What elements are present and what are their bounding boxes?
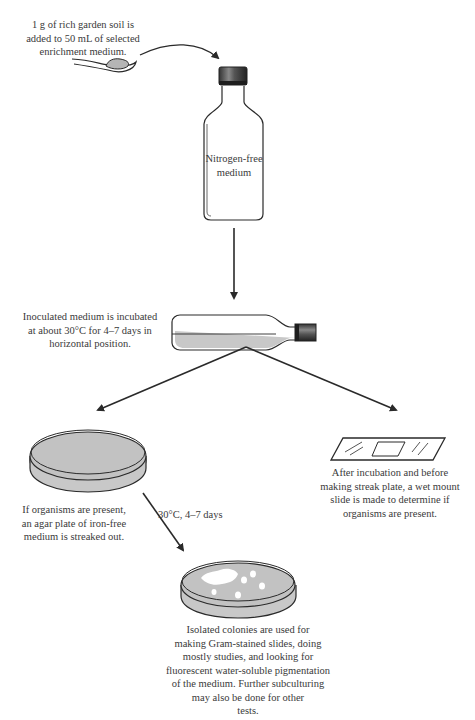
incubation-caption: Inoculated medium is incubated at about … — [10, 310, 170, 351]
caption-line: Inoculated medium is incubated — [10, 310, 170, 324]
caption-line: an agar plate of iron-free — [4, 517, 144, 531]
bottle-label: Nitrogen-free medium — [200, 152, 268, 179]
label-line: 30°C, 4–7 days — [158, 508, 248, 522]
caption-line: may also be done for other — [148, 691, 348, 705]
colony-plate-icon — [181, 561, 296, 618]
caption-line: fluorescent water-soluble pigmentation — [148, 664, 348, 678]
label-line: Nitrogen-free — [200, 152, 268, 166]
wet-mount-caption: After incubation and before making strea… — [305, 466, 475, 520]
arrow-to-plate — [98, 347, 246, 410]
caption-line: making streak plate, a wet mount — [305, 480, 475, 494]
soil-addition-caption: 1 g of rich garden soil is added to 50 m… — [18, 18, 148, 59]
caption-line: horizontal position. — [10, 337, 170, 351]
horizontal-bottle-icon — [172, 315, 316, 350]
isolated-colonies-caption: Isolated colonies are used for making Gr… — [148, 623, 348, 718]
diagram-artwork — [0, 0, 475, 720]
caption-line: at about 30°C for 4–7 days in — [10, 324, 170, 338]
bottle-icon — [204, 67, 263, 220]
streak-plate-caption: If organisms are present, an agar plate … — [4, 503, 144, 544]
slide-icon — [331, 438, 445, 460]
caption-line: 1 g of rich garden soil is — [18, 18, 148, 32]
plate-incubation-label: 30°C, 4–7 days — [158, 508, 248, 522]
arrow-to-slide — [246, 347, 396, 410]
caption-line: enrichment medium. — [18, 45, 148, 59]
caption-line: If organisms are present, — [4, 503, 144, 517]
caption-line: organisms are present. — [305, 507, 475, 521]
petri-dish-icon — [30, 430, 146, 492]
caption-line: tests. — [148, 704, 348, 718]
caption-line: making Gram-stained slides, doing — [148, 637, 348, 651]
label-line: medium — [200, 166, 268, 180]
spatula-icon — [72, 59, 136, 72]
caption-line: of the medium. Further subculturing — [148, 677, 348, 691]
caption-line: added to 50 mL of selected — [18, 32, 148, 46]
caption-line: Isolated colonies are used for — [148, 623, 348, 637]
caption-line: medium is streaked out. — [4, 530, 144, 544]
caption-line: After incubation and before — [305, 466, 475, 480]
arrow-to-colony-plate — [143, 493, 183, 550]
arrow-to-bottle — [140, 45, 218, 58]
caption-line: mostly studies, and looking for — [148, 650, 348, 664]
caption-line: slide is made to determine if — [305, 493, 475, 507]
